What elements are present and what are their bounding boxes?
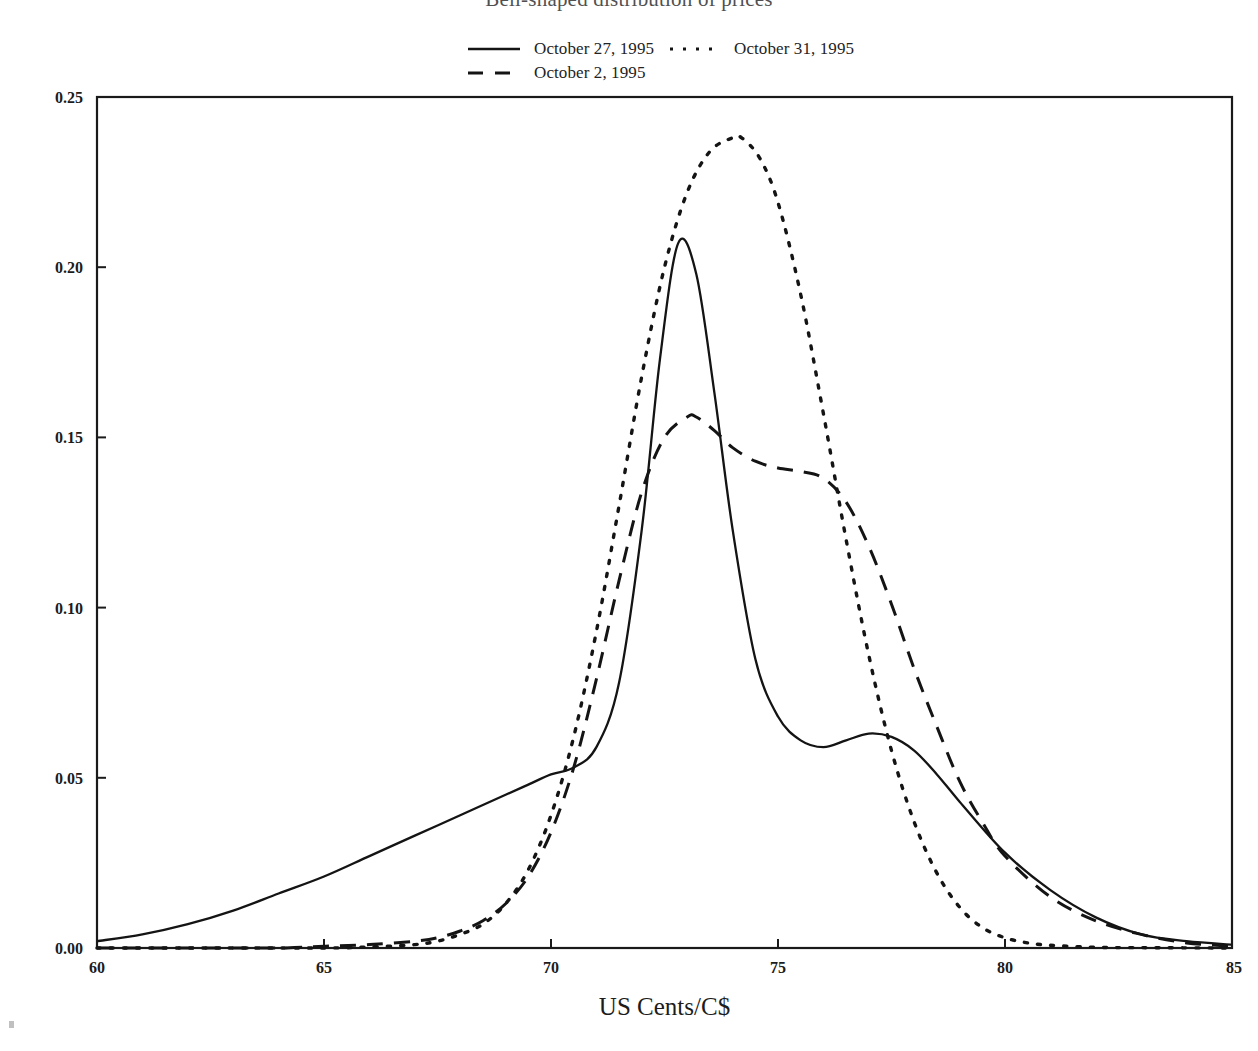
x-axis-title: US Cents/C$: [599, 993, 730, 1020]
y-tick-label: 0.05: [55, 770, 83, 787]
series-line-2: [97, 136, 1232, 948]
y-tick-label: 0.25: [55, 89, 83, 106]
series-line-0: [97, 239, 1232, 945]
series-line-1: [97, 415, 1232, 948]
y-tick-label: 0.10: [55, 600, 83, 617]
y-tick-label: 0.15: [55, 429, 83, 446]
x-tick-label: 85: [1226, 959, 1242, 976]
plot-area: 6065707580850.000.050.100.150.200.25US C…: [0, 0, 1258, 1051]
axis-ticks: [97, 97, 1232, 948]
axis-labels: 6065707580850.000.050.100.150.200.25US C…: [55, 89, 1242, 1020]
plot-frame: [97, 97, 1232, 948]
y-tick-label: 0.00: [55, 940, 83, 957]
x-tick-label: 70: [543, 959, 559, 976]
y-tick-label: 0.20: [55, 259, 83, 276]
x-tick-label: 60: [89, 959, 105, 976]
x-tick-label: 65: [316, 959, 332, 976]
x-tick-label: 75: [770, 959, 786, 976]
plot-canvas: 6065707580850.000.050.100.150.200.25US C…: [0, 0, 1258, 1051]
data-series: [97, 136, 1232, 948]
x-tick-label: 80: [997, 959, 1013, 976]
scan-artifact: [9, 1021, 14, 1028]
chart-page: Bell-shaped distribution of prices Octob…: [0, 0, 1258, 1051]
